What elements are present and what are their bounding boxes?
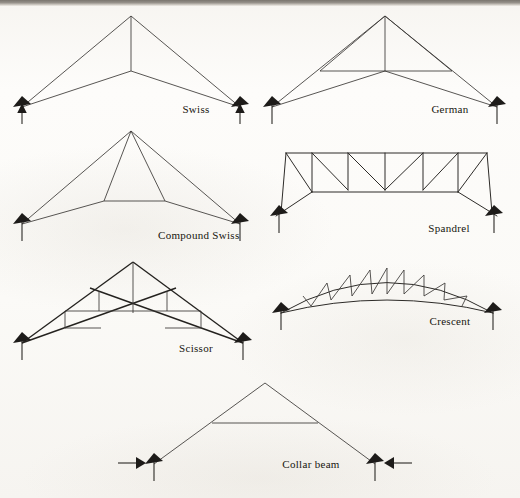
spandrel-diag-3 xyxy=(348,153,385,190)
diagram-page: Swiss German xyxy=(0,0,520,498)
scissor-top-chord-right xyxy=(133,262,243,343)
collar-beam-rafter-right xyxy=(265,383,375,464)
swiss-bottom-chord-right xyxy=(131,71,240,107)
compound-swiss-top-chord-right xyxy=(131,131,240,224)
label-swiss: Swiss xyxy=(182,103,209,115)
crescent-web-15 xyxy=(444,283,445,300)
german-support-left xyxy=(263,96,281,124)
spandrel-vertical-7 xyxy=(487,153,492,213)
figure-crescent: Crescent xyxy=(272,268,502,330)
crescent-members xyxy=(281,268,493,313)
german-support-right xyxy=(488,96,506,124)
german-bottom-chord-right xyxy=(385,71,497,107)
label-spandrel: Spandrel xyxy=(428,222,470,234)
label-scissor: Scissor xyxy=(179,342,213,354)
crescent-web-17 xyxy=(462,296,467,306)
spandrel-support-right xyxy=(485,205,503,233)
label-crescent: Crescent xyxy=(430,315,471,327)
crescent-web-12 xyxy=(404,275,424,294)
spandrel-diag-1 xyxy=(286,153,312,192)
spandrel-diag-6 xyxy=(458,153,487,192)
german-top-chord-left xyxy=(272,16,385,107)
crescent-web-4 xyxy=(331,275,350,300)
spandrel-members xyxy=(276,153,497,216)
figure-german: German xyxy=(263,16,506,124)
swiss-support-left xyxy=(13,96,31,124)
spandrel-vertical-1 xyxy=(281,153,286,213)
swiss-top-chord-left xyxy=(22,16,131,107)
swiss-support-right xyxy=(231,96,249,124)
compound-swiss-bottom-chord-left xyxy=(22,201,104,224)
label-collar-beam: Collar beam xyxy=(282,458,340,470)
figure-compound-swiss: Compound Swiss xyxy=(13,131,249,241)
collar-beam-rafter-left xyxy=(154,383,265,464)
collar-beam-thrust-arrow-left xyxy=(118,457,146,469)
crescent-support-left xyxy=(272,302,290,330)
compound-swiss-strut-right xyxy=(131,131,165,201)
crescent-bottom-arc xyxy=(281,300,493,313)
crescent-web-8 xyxy=(372,268,387,294)
figure-scissor: Scissor xyxy=(13,262,252,360)
compound-swiss-bottom-chord-right xyxy=(165,201,240,224)
swiss-members xyxy=(22,16,240,107)
collar-beam-support-left xyxy=(145,453,163,481)
label-compound-swiss: Compound Swiss xyxy=(158,229,240,241)
german-web-left xyxy=(320,16,385,71)
figure-swiss: Swiss xyxy=(13,16,249,124)
scissor-support-right xyxy=(234,332,252,360)
spandrel-diag-4 xyxy=(385,153,423,190)
scissor-members xyxy=(22,262,243,343)
crescent-web-6 xyxy=(352,270,370,296)
scissor-support-left xyxy=(13,332,31,360)
swiss-bottom-chord-left xyxy=(22,71,131,107)
collar-beam-members xyxy=(154,383,375,464)
compound-swiss-top-chord-left xyxy=(22,131,131,224)
crescent-web-7 xyxy=(370,270,372,294)
crescent-web-14 xyxy=(424,283,445,296)
german-members xyxy=(272,16,497,107)
scissor-chord-right xyxy=(90,288,243,343)
spandrel-diag-5 xyxy=(423,153,458,190)
crescent-web-2 xyxy=(311,283,327,306)
swiss-top-chord-right xyxy=(131,16,240,107)
collar-beam-thrust-arrow-right xyxy=(384,457,412,469)
german-web-right xyxy=(385,16,452,71)
label-german: German xyxy=(431,103,468,115)
german-bottom-chord-left xyxy=(272,71,385,107)
compound-swiss-support-left xyxy=(13,213,31,241)
crescent-support-right xyxy=(484,302,502,330)
crescent-web-10 xyxy=(387,270,404,294)
spandrel-diag-2 xyxy=(312,153,348,190)
scissor-top-chord-left xyxy=(22,262,133,343)
truss-plate-svg: Swiss German xyxy=(0,0,520,498)
figure-collar-beam: Collar beam xyxy=(118,383,412,481)
compound-swiss-members xyxy=(22,131,240,224)
collar-beam-support-right xyxy=(366,453,384,481)
figure-spandrel: Spandrel xyxy=(270,153,503,234)
compound-swiss-strut-left xyxy=(104,131,131,201)
